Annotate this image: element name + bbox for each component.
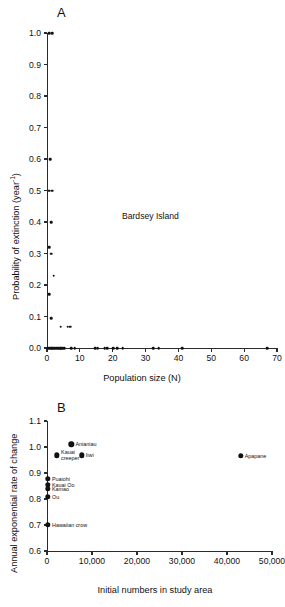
y-tick-label: 0.0 bbox=[5, 344, 41, 353]
y-tick-label: 1.0 bbox=[5, 443, 41, 452]
figure-container: A Probability of extinction (year-1) Pop… bbox=[0, 0, 285, 607]
data-point bbox=[45, 486, 50, 491]
panel-a-y-axis-title-sup: -1 bbox=[9, 176, 16, 182]
y-tick bbox=[44, 95, 48, 96]
data-point bbox=[51, 189, 54, 192]
data-point bbox=[73, 347, 76, 350]
x-tick bbox=[271, 551, 272, 555]
y-tick-label: 0.9 bbox=[5, 60, 41, 69]
y-tick bbox=[44, 316, 48, 317]
y-tick bbox=[44, 472, 48, 473]
x-tick bbox=[136, 551, 137, 555]
panel-a-plot-area bbox=[47, 33, 277, 348]
data-point bbox=[50, 317, 53, 320]
x-tick bbox=[244, 348, 245, 352]
data-point-label: Kamao bbox=[52, 486, 69, 492]
y-tick bbox=[44, 190, 48, 191]
y-tick-label: 0.5 bbox=[5, 186, 41, 195]
y-tick-label: 0.9 bbox=[5, 469, 41, 478]
x-tick-label: 40,000 bbox=[214, 557, 240, 566]
y-tick bbox=[44, 446, 48, 447]
data-point-label: Hawaiian crow bbox=[52, 522, 87, 528]
x-tick-label: 60 bbox=[239, 354, 249, 363]
y-tick-label: 0.7 bbox=[5, 521, 41, 530]
y-tick-label: 1.1 bbox=[5, 417, 41, 426]
x-tick-label: 50 bbox=[207, 354, 217, 363]
panel-b-x-axis-title: Initial numbers in study area bbox=[98, 586, 213, 595]
data-point bbox=[96, 347, 99, 350]
x-tick bbox=[211, 348, 212, 352]
x-tick-label: 10,000 bbox=[79, 557, 105, 566]
data-point bbox=[49, 158, 52, 161]
data-point bbox=[54, 453, 59, 458]
data-point bbox=[116, 347, 119, 350]
x-tick bbox=[178, 348, 179, 352]
data-point bbox=[181, 347, 184, 350]
x-tick-label: 50,000 bbox=[259, 557, 285, 566]
panel-a-letter: A bbox=[57, 5, 66, 20]
y-tick bbox=[44, 64, 48, 65]
data-point bbox=[51, 32, 54, 35]
data-point bbox=[45, 494, 50, 499]
data-point bbox=[50, 252, 53, 255]
x-tick-label: 40 bbox=[174, 354, 184, 363]
y-tick-label: 0.4 bbox=[5, 218, 41, 227]
y-tick bbox=[44, 420, 48, 421]
panel-b-letter: B bbox=[57, 400, 66, 415]
x-tick bbox=[181, 551, 182, 555]
data-point-label: Apapane bbox=[245, 453, 267, 459]
data-point bbox=[48, 293, 51, 296]
data-point bbox=[45, 476, 50, 481]
panel-b: B Annual exponential rate of change Init… bbox=[0, 395, 285, 607]
y-tick bbox=[44, 253, 48, 254]
x-tick-label: 20,000 bbox=[124, 557, 150, 566]
y-tick bbox=[44, 221, 48, 222]
x-tick-label: 30,000 bbox=[169, 557, 195, 566]
y-tick bbox=[44, 158, 48, 159]
data-point bbox=[60, 325, 63, 328]
y-tick bbox=[44, 284, 48, 285]
data-point bbox=[63, 347, 66, 350]
y-tick-label: 1.0 bbox=[5, 29, 41, 38]
x-tick bbox=[46, 551, 47, 555]
x-tick-label: 0 bbox=[45, 354, 50, 363]
data-point bbox=[52, 274, 55, 277]
x-tick-label: 70 bbox=[272, 354, 282, 363]
x-tick bbox=[145, 348, 146, 352]
data-point bbox=[69, 442, 74, 447]
data-point bbox=[266, 347, 269, 350]
panel-b-x-axis-line bbox=[47, 551, 272, 552]
data-point-label: Iiwi bbox=[86, 452, 94, 458]
x-tick-label: 10 bbox=[75, 354, 85, 363]
y-tick bbox=[44, 127, 48, 128]
x-tick-label: 20 bbox=[108, 354, 118, 363]
data-point-label: Ou bbox=[52, 494, 59, 500]
data-point-label: Anianiau bbox=[76, 441, 97, 447]
x-tick bbox=[79, 348, 80, 352]
data-point bbox=[69, 325, 72, 328]
data-point bbox=[238, 453, 243, 458]
data-point bbox=[112, 347, 115, 350]
data-point bbox=[152, 347, 155, 350]
panel-a-y-axis-title-tail: ) bbox=[11, 173, 21, 176]
data-point bbox=[48, 246, 51, 249]
x-tick bbox=[91, 551, 92, 555]
y-tick bbox=[44, 32, 48, 33]
y-tick-label: 0.1 bbox=[5, 312, 41, 321]
data-point bbox=[157, 347, 160, 350]
panel-a-x-axis-line bbox=[47, 348, 277, 349]
y-tick-label: 0.2 bbox=[5, 281, 41, 290]
x-tick-label: 30 bbox=[141, 354, 151, 363]
data-point bbox=[45, 522, 50, 527]
x-tick-label: 0 bbox=[45, 557, 50, 566]
data-point bbox=[50, 221, 53, 224]
y-tick-label: 0.8 bbox=[5, 495, 41, 504]
data-point bbox=[70, 347, 73, 350]
y-tick-label: 0.7 bbox=[5, 123, 41, 132]
data-point bbox=[106, 347, 109, 350]
panel-a-x-axis-title: Population size (N) bbox=[103, 374, 181, 383]
y-tick-label: 0.3 bbox=[5, 249, 41, 258]
panel-a: A Probability of extinction (year-1) Pop… bbox=[0, 0, 285, 395]
x-tick bbox=[226, 551, 227, 555]
x-tick bbox=[276, 348, 277, 352]
